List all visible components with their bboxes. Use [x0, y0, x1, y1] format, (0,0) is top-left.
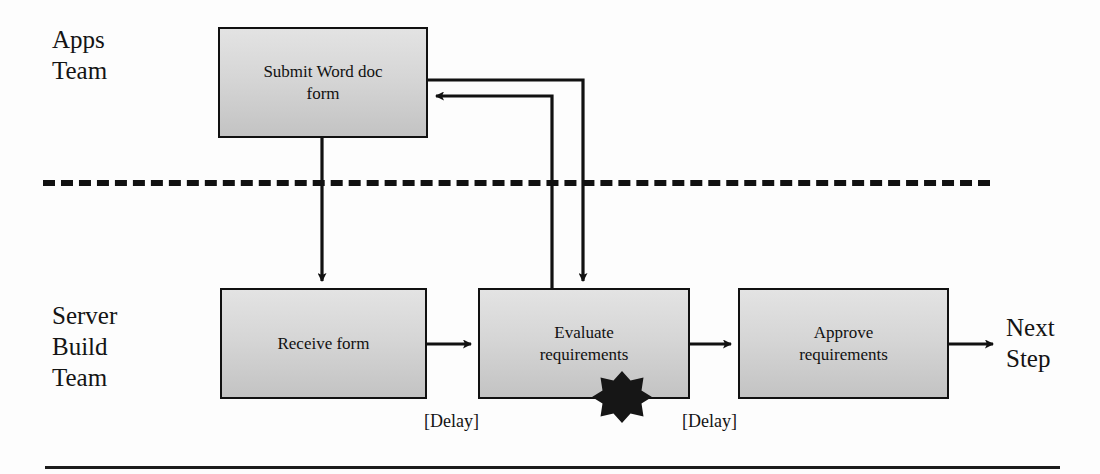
edge-label-delay-evaluate-to-approve: [Delay] — [682, 410, 737, 432]
process-box-submit-word-doc-form[interactable]: Submit Word docform — [218, 27, 428, 138]
terminator-label-next-step: NextStep — [1006, 312, 1055, 374]
bottom-divider-rule — [45, 466, 1060, 469]
arrow-evaluate-to-submit-loop — [436, 96, 552, 288]
process-box-evaluate-requirements[interactable]: Evaluaterequirements — [478, 288, 690, 399]
flowchart-canvas: AppsTeam ServerBuildTeam Submit Word doc… — [0, 0, 1100, 474]
process-box-receive-form[interactable]: Receive form — [220, 288, 427, 399]
swimlane-label-server-build-team: ServerBuildTeam — [52, 300, 117, 393]
edge-label-delay-receive-to-evaluate: [Delay] — [424, 410, 479, 432]
swimlane-label-apps-team: AppsTeam — [52, 24, 107, 86]
swimlane-divider-dashed — [43, 180, 990, 186]
connector-layer — [0, 0, 1100, 474]
process-box-approve-requirements[interactable]: Approverequirements — [738, 288, 949, 399]
